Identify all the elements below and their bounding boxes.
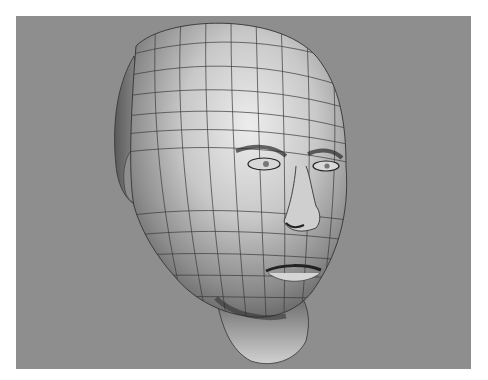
render-viewport [16, 16, 471, 369]
iris-right [324, 163, 329, 168]
iris-left [263, 161, 269, 167]
head-render [16, 16, 471, 369]
